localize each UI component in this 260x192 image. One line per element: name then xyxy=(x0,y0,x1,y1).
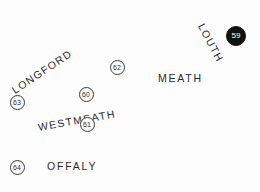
map-badge-63[interactable]: 63 xyxy=(10,95,25,110)
map-badge-62[interactable]: 62 xyxy=(110,60,125,75)
map-badge-61[interactable]: 61 xyxy=(80,117,95,132)
region-label-louth: LOUTH xyxy=(196,22,225,64)
map-canvas: LONGFORDLOUTHMEATHWESTMEATHOFFALY 596260… xyxy=(0,0,260,192)
region-label-longford: LONGFORD xyxy=(10,48,74,96)
map-badge-59[interactable]: 59 xyxy=(226,26,246,46)
region-label-westmeath: WESTMEATH xyxy=(37,108,117,132)
region-label-offaly: OFFALY xyxy=(47,161,97,172)
region-label-meath: MEATH xyxy=(158,73,203,84)
map-badge-64[interactable]: 64 xyxy=(10,160,25,175)
map-badge-60[interactable]: 60 xyxy=(79,87,94,102)
